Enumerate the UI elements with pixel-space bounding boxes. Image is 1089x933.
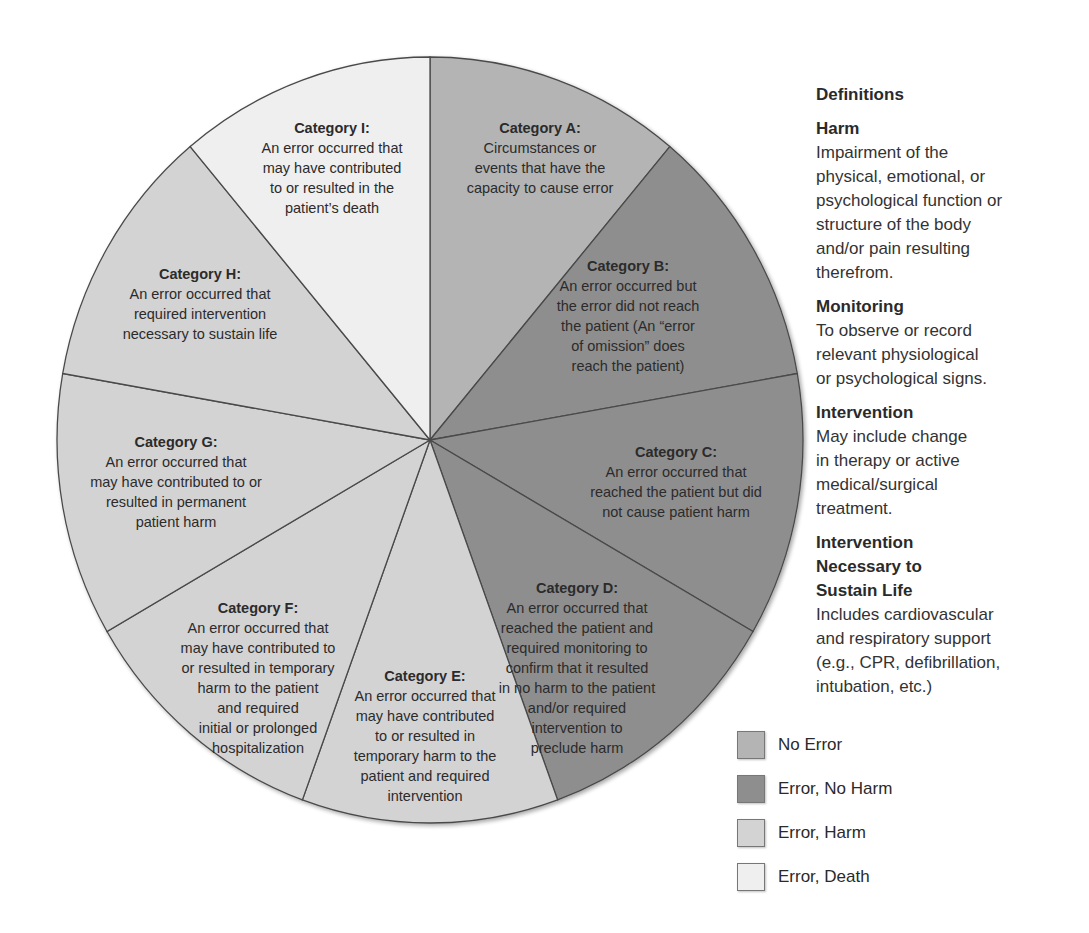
- category-description: An error occurred that required interven…: [100, 284, 300, 344]
- category-a-label: Category A:Circumstances or events that …: [445, 118, 635, 198]
- category-title: Category A:: [445, 118, 635, 138]
- category-title: Category D:: [472, 578, 682, 598]
- category-description: An error occurred but the error did not …: [528, 276, 728, 376]
- definition-term: Intervention Necessary to Sustain Life: [816, 531, 1086, 603]
- medication-error-index-diagram: Category A:Circumstances or events that …: [0, 0, 1089, 933]
- legend-label: No Error: [778, 735, 842, 755]
- definition-intervention: Intervention May include change in thera…: [816, 401, 1086, 521]
- category-title: Category I:: [237, 118, 427, 138]
- definition-harm: Harm Impairment of the physical, emotion…: [816, 117, 1086, 285]
- legend-item-error-death: Error, Death: [737, 855, 892, 899]
- definition-description: Includes cardiovascular and respiratory …: [816, 603, 1086, 699]
- category-title: Category C:: [566, 442, 786, 462]
- category-g-label: Category G:An error occurred that may ha…: [71, 432, 281, 532]
- legend: No Error Error, No Harm Error, Harm Erro…: [737, 723, 892, 899]
- category-title: Category H:: [100, 264, 300, 284]
- legend-label: Error, No Harm: [778, 779, 892, 799]
- definition-monitoring: Monitoring To observe or record relevant…: [816, 295, 1086, 391]
- legend-swatch: [737, 775, 765, 803]
- category-description: An error occurred that may have contribu…: [158, 618, 358, 758]
- category-title: Category F:: [158, 598, 358, 618]
- category-h-label: Category H:An error occurred that requir…: [100, 264, 300, 344]
- definitions-panel: Definitions Harm Impairment of the physi…: [816, 85, 1086, 709]
- category-title: Category G:: [71, 432, 281, 452]
- legend-label: Error, Harm: [778, 823, 866, 843]
- legend-swatch: [737, 819, 765, 847]
- legend-swatch: [737, 731, 765, 759]
- legend-item-error-harm: Error, Harm: [737, 811, 892, 855]
- definition-description: To observe or record relevant physiologi…: [816, 319, 1086, 391]
- definition-term: Monitoring: [816, 295, 1086, 319]
- category-description: An error occurred that may have contribu…: [71, 452, 281, 532]
- category-title: Category B:: [528, 256, 728, 276]
- definition-description: May include change in therapy or active …: [816, 425, 1086, 521]
- legend-item-error-no-harm: Error, No Harm: [737, 767, 892, 811]
- definition-term: Harm: [816, 117, 1086, 141]
- definition-sustain-life: Intervention Necessary to Sustain Life I…: [816, 531, 1086, 699]
- category-description: An error occurred that reached the patie…: [566, 462, 786, 522]
- legend-item-no-error: No Error: [737, 723, 892, 767]
- definition-term: Intervention: [816, 401, 1086, 425]
- category-description: An error occurred that may have contribu…: [237, 138, 427, 218]
- legend-label: Error, Death: [778, 867, 870, 887]
- category-i-label: Category I:An error occurred that may ha…: [237, 118, 427, 218]
- category-c-label: Category C:An error occurred that reache…: [566, 442, 786, 522]
- legend-swatch: [737, 863, 765, 891]
- category-f-label: Category F:An error occurred that may ha…: [158, 598, 358, 758]
- category-b-label: Category B:An error occurred but the err…: [528, 256, 728, 376]
- definitions-heading: Definitions: [816, 85, 1086, 105]
- category-description: Circumstances or events that have the ca…: [445, 138, 635, 198]
- definition-description: Impairment of the physical, emotional, o…: [816, 141, 1086, 285]
